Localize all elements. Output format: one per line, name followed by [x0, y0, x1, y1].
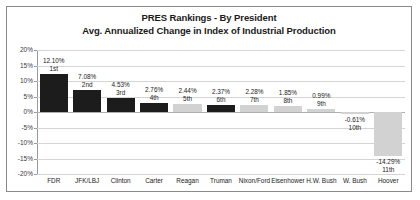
x-axis-category-label: Eisenhower [271, 177, 304, 184]
bar-slot[interactable]: 2.37%6th [204, 50, 237, 174]
x-axis-category-label: Nixon/Ford [238, 177, 271, 184]
bar[interactable] [173, 104, 201, 112]
gridline [37, 174, 405, 175]
chart-frame: PRES Rankings - By President Avg. Annual… [6, 6, 412, 192]
bar-slot[interactable]: 12.10%1st [37, 50, 70, 174]
bar-slot[interactable]: -0.61%10th [338, 50, 371, 174]
y-axis-tick [34, 174, 37, 175]
bar[interactable] [374, 112, 402, 156]
x-axis-category-label: H.W. Bush [305, 177, 338, 184]
bar-slot[interactable]: -14.29%11th [372, 50, 405, 174]
bar[interactable] [274, 106, 302, 112]
x-axis-category-labels: FDRJFK/LBJClintonCarterReaganTrumanNixon… [37, 177, 405, 189]
bar[interactable] [207, 105, 235, 112]
x-axis-category-label: JFK/LBJ [70, 177, 103, 184]
bar-value-label: -14.29% [358, 158, 419, 165]
bar-rank-label: 11th [358, 166, 419, 173]
x-axis-category-label: W. Bush [338, 177, 371, 184]
bar[interactable] [140, 103, 168, 112]
y-axis-tick-label: 10% [7, 77, 33, 84]
x-axis-category-label: FDR [37, 177, 70, 184]
x-axis-category-label: Reagan [171, 177, 204, 184]
y-axis-tick-label: 20% [7, 46, 33, 53]
x-axis-category-label: Carter [137, 177, 170, 184]
bar-slot[interactable]: 7.08%2nd [70, 50, 103, 174]
bar-slot[interactable]: 2.44%5th [171, 50, 204, 174]
y-axis-tick-label: -5% [7, 124, 33, 131]
chart-title: PRES Rankings - By President Avg. Annual… [7, 12, 411, 37]
y-axis-tick-label: 5% [7, 93, 33, 100]
bar[interactable] [307, 109, 335, 112]
chart-title-line2: Avg. Annualized Change in Index of Indus… [7, 25, 411, 38]
y-axis-tick-label: -10% [7, 139, 33, 146]
bar-slot[interactable]: 0.99%9th [305, 50, 338, 174]
bar-slot[interactable]: 2.28%7th [238, 50, 271, 174]
bar[interactable] [240, 105, 268, 112]
x-axis-category-label: Hoover [372, 177, 405, 184]
bar[interactable] [341, 112, 369, 114]
y-axis-tick-label: -15% [7, 155, 33, 162]
bar-series: 12.10%1st7.08%2nd4.53%3rd2.76%4th2.44%5t… [37, 50, 405, 174]
x-axis-category-label: Clinton [104, 177, 137, 184]
bar-slot[interactable]: 2.76%4th [137, 50, 170, 174]
chart-title-line1: PRES Rankings - By President [7, 12, 411, 25]
bar-slot[interactable]: 4.53%3rd [104, 50, 137, 174]
plot-area: 20%15%10%5%0%-5%-10%-15%-20% 12.10%1st7.… [37, 50, 405, 174]
x-axis-category-label: Truman [204, 177, 237, 184]
y-axis-tick-label: -20% [7, 170, 33, 177]
bar-slot[interactable]: 1.85%8th [271, 50, 304, 174]
y-axis-tick-label: 0% [7, 108, 33, 115]
